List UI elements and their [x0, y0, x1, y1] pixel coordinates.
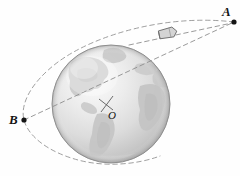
orbital-diagram-figure: A B O [0, 0, 240, 176]
point-b-dot [21, 117, 26, 122]
earth-sphere [52, 45, 171, 163]
label-center-o: O [108, 110, 116, 121]
label-point-a: A [222, 5, 231, 18]
spacecraft-icon [158, 26, 178, 40]
point-a-dot [231, 19, 236, 24]
diagram-canvas [0, 0, 240, 176]
label-point-b: B [9, 113, 18, 126]
